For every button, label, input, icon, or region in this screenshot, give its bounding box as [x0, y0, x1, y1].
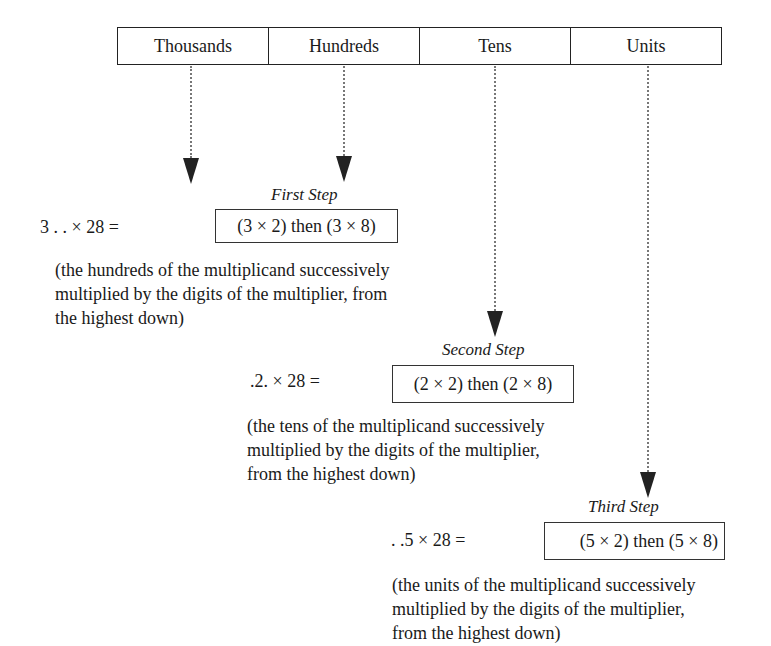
- units-arrow-down-icon: [640, 472, 656, 498]
- second-step-title: Second Step: [442, 340, 525, 360]
- column-thousands: Thousands: [118, 28, 269, 64]
- first-step-expression: 3 . . × 28 =: [40, 217, 119, 238]
- place-value-header: Thousands Hundreds Tens Units: [117, 27, 722, 65]
- column-hundreds: Hundreds: [269, 28, 420, 64]
- units-connector-line: [647, 66, 649, 472]
- first-step-description: (the hundreds of the multiplicand succes…: [55, 258, 389, 330]
- second-step-expression: .2. × 28 =: [250, 371, 320, 392]
- tens-arrow-down-icon: [487, 311, 503, 337]
- first-step-operation-box: (3 × 2) then (3 × 8): [215, 209, 398, 243]
- third-step-description: (the units of the multiplicand successiv…: [392, 573, 695, 645]
- hundreds-arrow-down-icon: [336, 156, 352, 182]
- tens-connector-line: [494, 66, 496, 311]
- third-step-title: Third Step: [588, 497, 659, 517]
- third-step-expression: . .5 × 28 =: [391, 530, 465, 551]
- thousands-arrow-down-icon: [183, 158, 199, 184]
- column-units: Units: [571, 28, 721, 64]
- second-step-operation-box: (2 × 2) then (2 × 8): [392, 365, 574, 403]
- hundreds-connector-line: [343, 66, 345, 156]
- column-tens: Tens: [420, 28, 571, 64]
- third-step-operation-box: (5 × 2) then (5 × 8): [544, 522, 725, 560]
- second-step-description: (the tens of the multiplicand successive…: [247, 414, 544, 486]
- first-step-title: First Step: [271, 185, 338, 205]
- thousands-connector-line: [190, 66, 192, 158]
